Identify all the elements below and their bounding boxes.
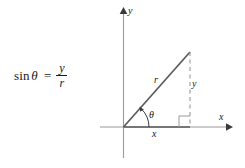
adjacent-label-x: x (152, 129, 156, 139)
coordinate-diagram (0, 0, 245, 168)
opposite-label-y: y (192, 79, 196, 89)
angle-theta-arc (142, 109, 150, 127)
y-axis-arrowhead (120, 7, 128, 14)
y-axis-label: y (128, 6, 132, 16)
x-axis-arrowhead (226, 123, 233, 131)
figure-canvas: sin θ = y r y x r y x θ (0, 0, 245, 168)
right-angle-marker (179, 116, 190, 127)
hypotenuse-label-r: r (154, 75, 158, 85)
x-axis-label: x (219, 112, 223, 122)
angle-label-theta: θ (149, 110, 154, 120)
